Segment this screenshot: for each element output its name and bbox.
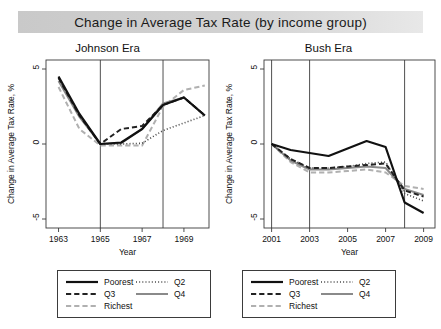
y-axis-label: Change in Average Tax Rate, % (6, 83, 16, 204)
x-tick-label: 1963 (49, 234, 68, 244)
legend-bush-content: PoorestQ2Q3Q4Richest (243, 271, 393, 315)
plot-johnson: 50-51963196519671969YearChange in Averag… (0, 40, 215, 268)
y-tick-label: -5 (249, 213, 259, 221)
x-tick-label: 1967 (133, 234, 152, 244)
x-axis-label: Year (119, 247, 136, 257)
y-tick-label: 5 (31, 64, 41, 69)
x-tick-label: 1965 (91, 234, 110, 244)
legend-label-q3: Q3 (289, 289, 301, 299)
x-tick-label: 2009 (414, 234, 433, 244)
x-tick-label: 2007 (376, 234, 395, 244)
legend-label-q2: Q2 (174, 277, 186, 287)
y-tick-label: 5 (249, 64, 259, 69)
legend-johnson: PoorestQ2Q3Q4Richest (57, 270, 211, 318)
x-axis-label: Year (341, 247, 358, 257)
legend-label-richest: Richest (104, 301, 133, 311)
legend-johnson-content: PoorestQ2Q3Q4Richest (58, 271, 208, 315)
legend-label-q4: Q4 (359, 289, 371, 299)
legend-label-q2: Q2 (359, 277, 371, 287)
x-tick-label: 2001 (262, 234, 281, 244)
chart-panel-johnson: Johnson Era 50-51963196519671969YearChan… (0, 40, 215, 268)
legend-label-q3: Q3 (104, 289, 116, 299)
chart-panel-bush: Bush Era 50-520012003200520072009YearCha… (216, 40, 441, 268)
legend-label-poorest: Poorest (104, 277, 134, 287)
x-tick-label: 1969 (174, 234, 193, 244)
plot-frame (264, 60, 435, 228)
x-tick-label: 2003 (300, 234, 319, 244)
x-tick-label: 2005 (338, 234, 357, 244)
plot-bush: 50-520012003200520072009YearChange in Av… (216, 40, 441, 268)
legend-label-poorest: Poorest (289, 277, 319, 287)
legend-label-richest: Richest (289, 301, 318, 311)
legend-label-q4: Q4 (174, 289, 186, 299)
chart-title-bush: Bush Era (216, 42, 441, 54)
chart-title-johnson: Johnson Era (0, 42, 215, 54)
legend-bush: PoorestQ2Q3Q4Richest (242, 270, 396, 318)
y-tick-label: 0 (31, 139, 41, 144)
figure-root: Change in Average Tax Rate (by income gr… (0, 0, 441, 329)
y-tick-label: -5 (31, 213, 41, 221)
y-axis-label: Change in Average Tax Rate, % (224, 83, 234, 204)
y-tick-label: 0 (249, 139, 259, 144)
plot-frame (46, 60, 209, 228)
page-title: Change in Average Tax Rate (by income gr… (18, 11, 423, 33)
